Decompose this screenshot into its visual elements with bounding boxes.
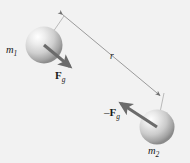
mass2-symbol: m [148,145,156,156]
mass1-subscript: 1 [14,49,18,58]
force-mass2-label: –Fg [104,107,120,121]
mass1-label: m1 [6,45,17,58]
mass1-symbol: m [6,44,14,55]
diagram-canvas [0,0,190,163]
force1-symbol: F [55,69,62,81]
force-mass1-label: Fg [55,70,65,84]
separation-label: r [110,52,114,62]
mass2-label: m2 [148,146,159,159]
force2-subscript: g [116,112,120,121]
mass2-subscript: 2 [156,150,160,159]
gravitation-diagram: m1 m2 Fg –Fg r [0,0,190,163]
force1-subscript: g [62,75,66,84]
